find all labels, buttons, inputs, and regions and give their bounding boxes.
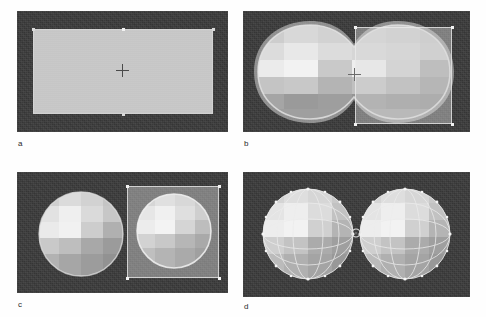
corner-handle-tr[interactable] <box>218 185 221 188</box>
panel-caption-c: c <box>18 301 22 309</box>
sphere-left[interactable] <box>37 190 125 278</box>
vertex-handle-bottom[interactable] <box>122 113 125 116</box>
viewport-c[interactable] <box>17 172 228 293</box>
sphere-mesh-wire <box>357 186 453 282</box>
vertex-handle-top-right[interactable] <box>212 28 215 31</box>
figure-root: a <box>0 0 486 317</box>
viewport-a[interactable] <box>17 11 228 132</box>
origin-marker-icon[interactable] <box>349 226 363 240</box>
corner-handle-bl[interactable] <box>126 277 129 280</box>
sphere-right-wireframe[interactable] <box>357 186 453 282</box>
panel-caption-b: b <box>244 140 248 148</box>
corner-handle-tr[interactable] <box>451 26 454 29</box>
panel-d <box>243 172 470 297</box>
corner-handle-bl[interactable] <box>354 123 357 126</box>
corner-handle-br[interactable] <box>218 277 221 280</box>
sphere-left-wireframe[interactable] <box>260 186 356 282</box>
sphere-mesh <box>135 192 213 270</box>
panel-b <box>243 11 470 132</box>
3d-cursor-icon[interactable] <box>116 64 129 77</box>
corner-handle-tl[interactable] <box>354 26 357 29</box>
sphere-mesh-wire <box>260 186 356 282</box>
sphere-mesh <box>37 190 125 278</box>
panel-c <box>17 172 228 293</box>
3d-cursor-icon[interactable] <box>348 68 361 81</box>
selection-square[interactable] <box>355 27 452 124</box>
sphere-right[interactable] <box>135 192 213 270</box>
panel-caption-d: d <box>244 303 248 311</box>
viewport-d[interactable] <box>243 172 470 297</box>
corner-handle-tl[interactable] <box>126 185 129 188</box>
vertex-handle-top[interactable] <box>122 28 125 31</box>
panel-caption-a: a <box>18 140 22 148</box>
corner-handle-br[interactable] <box>451 123 454 126</box>
panel-a <box>17 11 228 132</box>
vertex-handle-top-left[interactable] <box>32 28 35 31</box>
viewport-b[interactable] <box>243 11 470 132</box>
